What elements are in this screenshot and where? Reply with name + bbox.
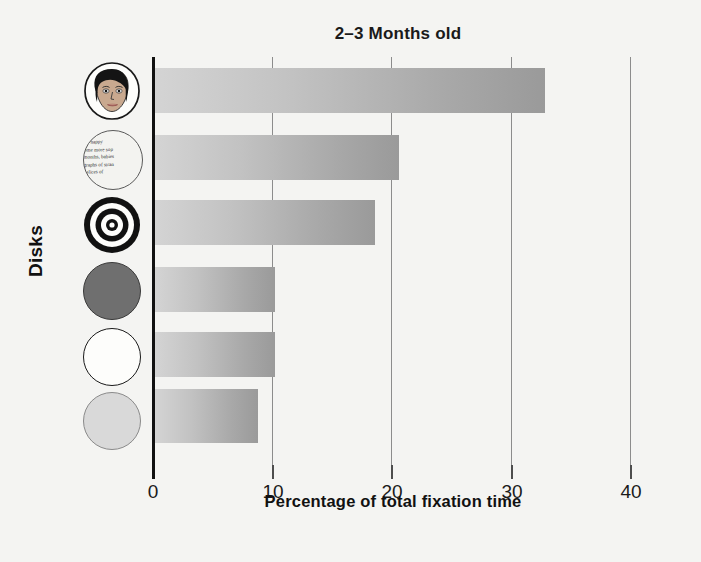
gridline-40 (630, 57, 631, 465)
y-axis-label: Disks (14, 196, 58, 306)
x-tick-0 (152, 465, 155, 479)
bar-red-disk (155, 267, 275, 312)
bar-yellow-disk (155, 389, 258, 443)
dark-solid-disk-icon (83, 262, 141, 320)
gridline-10 (272, 57, 273, 465)
face-drawing-icon (83, 62, 143, 122)
chart-title-text: 2–3 Months old (335, 24, 462, 44)
category-icon-red-disk (83, 262, 143, 322)
chart-title: 2–3 Months old (0, 24, 701, 44)
category-icon-yellow-disk (83, 392, 143, 452)
category-icon-face (83, 62, 143, 122)
category-icon-bullseye (83, 196, 143, 256)
white-solid-disk-icon (83, 328, 141, 386)
y-axis-label-text: Disks (25, 225, 47, 277)
plot-area: 0 10 20 30 40 (152, 57, 634, 465)
light-solid-disk-icon (83, 392, 141, 450)
x-tick-40 (630, 465, 632, 479)
bar-bullseye-disk (155, 200, 375, 245)
newsprint-text-icon: prefer happy become more sop t 3 months,… (83, 130, 143, 190)
x-tick-10 (272, 465, 274, 479)
newsprint-line: ble sur (83, 175, 143, 183)
category-icon-newsprint: prefer happy become more sop t 3 months,… (83, 130, 143, 190)
gridline-20 (391, 57, 392, 465)
x-axis-label: Percentage of total fixation time (152, 492, 634, 511)
chart-figure: 2–3 Months old Disks prefer happy (0, 0, 701, 562)
x-tick-30 (511, 465, 513, 479)
gridline-30 (511, 57, 512, 465)
bullseye-icon (83, 196, 143, 256)
x-tick-20 (391, 465, 393, 479)
category-icon-white-disk (83, 328, 143, 388)
bar-newsprint-disk (155, 135, 399, 180)
bar-face-disk (155, 68, 545, 113)
bar-white-disk (155, 332, 275, 377)
